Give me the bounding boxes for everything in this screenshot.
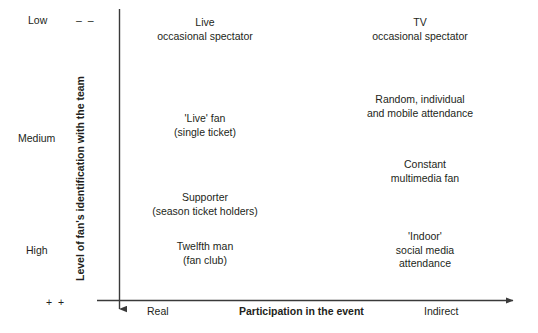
cell-twelfth-man: Twelfth man (fan club) (130, 240, 280, 267)
y-tick-low: Low (28, 14, 47, 27)
cell-live-occasional-spectator: Live occasional spectator (130, 16, 280, 43)
cell-live-fan: 'Live' fan (single ticket) (130, 112, 280, 139)
x-tick-real: Real (147, 305, 169, 318)
y-tick-medium: Medium (18, 132, 55, 145)
cell-indoor-social-media: 'Indoor' social media attendance (350, 230, 500, 271)
cell-constant-multimedia-fan: Constant multimedia fan (350, 158, 500, 185)
cell-random-individual-mobile: Random, individual and mobile attendance (345, 93, 495, 120)
cell-tv-occasional-spectator: TV occasional spectator (345, 16, 495, 43)
cell-supporter: Supporter (season ticket holders) (128, 191, 282, 218)
y-marker-bottom: + + (46, 296, 66, 309)
y-marker-top: – – (76, 14, 95, 27)
y-tick-high: High (26, 244, 48, 257)
fan-typology-matrix-diagram: Low – – Medium High + + Level of fan's i… (0, 0, 538, 333)
x-tick-indirect: Indirect (424, 305, 458, 318)
x-axis-title: Participation in the event (239, 305, 364, 318)
y-axis-title: Level of fan's identification with the t… (74, 76, 87, 281)
